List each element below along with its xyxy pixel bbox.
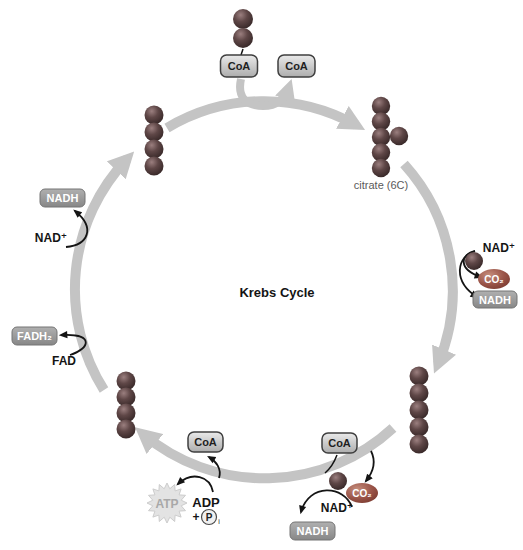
carbon-ball	[233, 28, 253, 48]
carbon-ball	[145, 157, 164, 176]
coa-box-top-left: CoA	[221, 55, 258, 77]
carbon-ball	[145, 123, 164, 142]
adp-label: ADP	[192, 495, 220, 510]
nadh-label: NADH	[297, 525, 329, 537]
carbon-ball	[372, 159, 390, 177]
carbon-ball	[410, 401, 429, 420]
citrate-label: citrate (6C)	[354, 179, 408, 191]
carbon-ball	[465, 252, 483, 270]
nadh-label: NADH	[47, 192, 79, 204]
cycle-arc-right	[404, 164, 453, 364]
plus-sign: +	[192, 510, 199, 524]
krebs-cycle-figure: CoA CoA CoA CoA NADH NADH NADH FADH₂ CO₂…	[0, 0, 523, 550]
four-carbon-chain-bottom-left	[117, 372, 136, 439]
carbon-ball	[233, 9, 253, 29]
co2-release-bottom: CO₂	[329, 472, 378, 503]
adp-to-atp-arrow	[178, 477, 213, 492]
phosphate-group: + P i	[192, 510, 220, 526]
carbon-ball	[410, 384, 429, 403]
carbon-ball	[329, 472, 347, 490]
co2-release-right: CO₂	[465, 252, 510, 289]
nadh-box-upper-left: NADH	[40, 189, 85, 207]
carbon-ball	[410, 367, 429, 386]
co2-label: CO₂	[484, 274, 503, 285]
nad-plus-label-right: NAD⁺	[483, 241, 515, 255]
acetyl-group-chain	[233, 9, 253, 48]
carbon-ball	[390, 127, 408, 145]
four-carbon-chain-top-left	[145, 106, 164, 176]
five-carbon-chain	[410, 367, 429, 454]
nadh-box-bottom: NADH	[290, 522, 335, 540]
nad-plus-label-upper-left: NAD⁺	[35, 231, 67, 245]
acetyl-coa-bond-line	[241, 49, 243, 55]
krebs-cycle-diagram: CoA CoA CoA CoA NADH NADH NADH FADH₂ CO₂…	[0, 0, 523, 550]
phosphate-label: P	[206, 512, 213, 523]
fadh2-box: FADH₂	[12, 327, 57, 345]
coa-box-top-right: CoA	[278, 55, 315, 77]
coa-label: CoA	[285, 60, 308, 72]
atp-label: ATP	[155, 497, 178, 511]
carbon-ball	[117, 420, 136, 439]
carbon-ball	[145, 106, 164, 125]
nad-plus-label-bottom: NAD⁺	[321, 501, 353, 515]
nadh-label: NADH	[479, 294, 511, 306]
carbon-ball	[410, 435, 429, 454]
coa-label: CoA	[228, 60, 251, 72]
nadh-box-right: NADH	[473, 291, 517, 308]
phosphate-subscript: i	[218, 518, 220, 525]
diagram-title: Krebs Cycle	[239, 285, 314, 300]
co2-release-arrow-bottom	[366, 451, 374, 481]
coa-label: CoA	[194, 436, 217, 448]
fad-label: FAD	[52, 354, 76, 368]
atp-group: ATP	[147, 483, 187, 523]
coa-label: CoA	[328, 437, 351, 449]
coa-box-bottom-right: CoA	[322, 433, 357, 453]
carbon-ball	[410, 418, 429, 437]
coa-box-bottom-left: CoA	[188, 432, 223, 452]
co2-label: CO₂	[352, 488, 371, 499]
carbon-ball	[145, 140, 164, 159]
fadh2-label: FADH₂	[17, 330, 52, 342]
